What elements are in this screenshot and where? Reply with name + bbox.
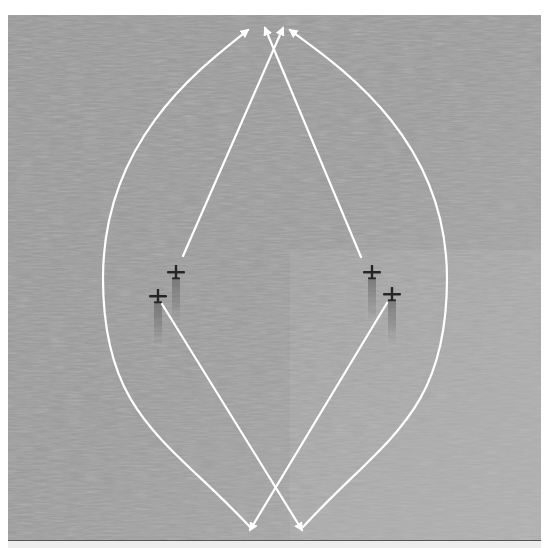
right-wing-shadow	[388, 299, 396, 345]
left-lead-shadow	[172, 277, 180, 323]
aerial-diagram	[0, 0, 550, 548]
left-wing-shadow	[154, 301, 162, 347]
diagram-frame	[0, 0, 550, 548]
water-background	[8, 15, 541, 540]
right-lead-shadow	[368, 277, 376, 323]
bottom-strip	[8, 540, 541, 548]
